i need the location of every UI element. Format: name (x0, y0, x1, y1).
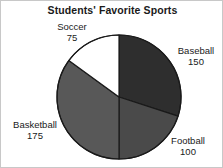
slice-label-baseball-value: 150 (169, 56, 223, 67)
slice-label-football-value: 100 (161, 146, 215, 157)
slice-label-football: Football 100 (161, 135, 215, 157)
slice-label-basketball-name: Basketball (4, 119, 66, 130)
pie-chart-figure: Students' Favorite Sports Soccer 75 Base… (0, 0, 223, 168)
slice-label-soccer: Soccer 75 (46, 21, 98, 43)
slice-label-basketball: Basketball 175 (4, 119, 66, 141)
slice-label-baseball: Baseball 150 (169, 45, 223, 67)
slice-label-basketball-value: 175 (4, 130, 66, 141)
slice-label-football-name: Football (161, 135, 215, 146)
slice-label-baseball-name: Baseball (169, 45, 223, 56)
slice-label-soccer-name: Soccer (46, 21, 98, 32)
slice-label-soccer-value: 75 (46, 32, 98, 43)
